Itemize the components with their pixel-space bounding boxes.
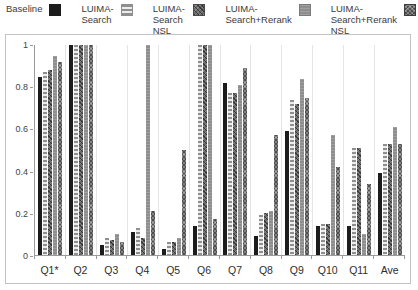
legend-label: LUIMA- bbox=[331, 3, 397, 14]
bar bbox=[131, 232, 135, 255]
legend: Baseline LUIMA- Search LUIMA- Search NSL… bbox=[6, 3, 416, 33]
bar bbox=[203, 45, 207, 255]
x-axis-label: Q10 bbox=[312, 264, 343, 279]
bar bbox=[141, 238, 145, 255]
legend-item-luima-search: LUIMA- Search bbox=[81, 3, 132, 25]
bar bbox=[38, 77, 42, 256]
x-axis-ticks bbox=[34, 256, 405, 259]
bar bbox=[321, 224, 325, 256]
x-tick bbox=[343, 256, 374, 259]
y-tick-label: 0.8 bbox=[15, 82, 34, 92]
bar bbox=[367, 184, 371, 255]
bar bbox=[295, 104, 299, 255]
legend-label: Search bbox=[81, 14, 113, 25]
bar bbox=[378, 173, 382, 255]
bar-group-Q10 bbox=[312, 45, 343, 255]
bar-group-Q8 bbox=[250, 45, 281, 255]
bar bbox=[336, 167, 340, 255]
bar bbox=[172, 242, 176, 255]
x-tick bbox=[251, 256, 282, 259]
bar bbox=[357, 148, 361, 255]
x-tick bbox=[282, 256, 313, 259]
bar-group-Q4 bbox=[127, 45, 158, 255]
x-axis-label: Q5 bbox=[158, 264, 189, 279]
legend-label: Baseline bbox=[6, 3, 42, 14]
bar bbox=[269, 211, 273, 255]
legend-label: Search NSL bbox=[153, 14, 187, 36]
bar bbox=[233, 93, 237, 255]
bar bbox=[105, 238, 109, 255]
bar bbox=[259, 215, 263, 255]
bar bbox=[290, 100, 294, 255]
legend-label: LUIMA- bbox=[153, 3, 187, 14]
plot-area bbox=[34, 45, 405, 256]
bar bbox=[264, 213, 268, 255]
x-tick bbox=[312, 256, 343, 259]
bar-group-Q7 bbox=[220, 45, 251, 255]
x-tick bbox=[66, 256, 97, 259]
x-tick bbox=[34, 256, 66, 259]
bar bbox=[84, 45, 88, 255]
legend-label: Search+Rerank NSL bbox=[331, 14, 397, 36]
x-axis-label: Ave bbox=[374, 264, 405, 279]
x-tick bbox=[189, 256, 220, 259]
bar bbox=[285, 131, 289, 255]
bar-group-Q1 bbox=[35, 45, 65, 255]
bar bbox=[162, 249, 166, 255]
y-axis: 00.20.40.60.81 bbox=[6, 45, 34, 256]
y-tick-label: 0.6 bbox=[15, 124, 34, 134]
bar bbox=[305, 98, 309, 256]
x-tick bbox=[127, 256, 158, 259]
x-tick bbox=[220, 256, 251, 259]
bar bbox=[362, 234, 366, 255]
bar bbox=[110, 240, 114, 255]
x-tick bbox=[158, 256, 189, 259]
bar bbox=[300, 79, 304, 255]
legend-swatch-checker-icon bbox=[193, 4, 205, 16]
legend-swatch-crosshatch-icon bbox=[404, 4, 416, 16]
bar bbox=[352, 148, 356, 255]
x-tick bbox=[374, 256, 405, 259]
bar bbox=[177, 238, 181, 255]
y-tick-label: 0 bbox=[23, 251, 34, 261]
bar-group-Q6 bbox=[189, 45, 220, 255]
bar bbox=[89, 45, 93, 255]
bar bbox=[182, 150, 186, 255]
bar bbox=[74, 45, 78, 255]
bar bbox=[393, 127, 397, 255]
x-axis-label: Q3 bbox=[96, 264, 127, 279]
legend-swatch-solid-icon bbox=[49, 4, 61, 16]
bar bbox=[58, 62, 62, 255]
bar bbox=[193, 226, 197, 255]
bar bbox=[243, 68, 247, 255]
bar-group-Q3 bbox=[96, 45, 127, 255]
bar bbox=[228, 93, 232, 255]
bar bbox=[398, 144, 402, 255]
bar bbox=[198, 45, 202, 255]
x-tick bbox=[97, 256, 128, 259]
bar-group-Q11 bbox=[343, 45, 374, 255]
legend-item-baseline: Baseline bbox=[6, 3, 61, 16]
bar bbox=[208, 45, 212, 255]
bar bbox=[223, 83, 227, 255]
bar bbox=[69, 45, 73, 255]
bar bbox=[316, 226, 320, 255]
legend-label: Search+Rerank bbox=[225, 14, 291, 25]
legend-item-luima-search-nsl: LUIMA- Search NSL bbox=[153, 3, 206, 36]
legend-label: LUIMA- bbox=[81, 3, 113, 14]
bar bbox=[213, 219, 217, 255]
bar bbox=[254, 236, 258, 255]
bar bbox=[48, 70, 52, 255]
bar bbox=[326, 224, 330, 256]
legend-swatch-gray-icon bbox=[299, 4, 311, 16]
bar bbox=[79, 45, 83, 255]
bar bbox=[347, 226, 351, 255]
bar bbox=[331, 135, 335, 255]
x-axis-label: Q1* bbox=[34, 264, 65, 279]
legend-item-luima-search-rerank: LUIMA- Search+Rerank bbox=[225, 3, 310, 25]
legend-item-luima-search-rerank-nsl: LUIMA- Search+Rerank NSL bbox=[331, 3, 416, 36]
bar bbox=[120, 242, 124, 255]
bar bbox=[238, 85, 242, 255]
bar-group-Q5 bbox=[158, 45, 189, 255]
bar bbox=[383, 144, 387, 255]
